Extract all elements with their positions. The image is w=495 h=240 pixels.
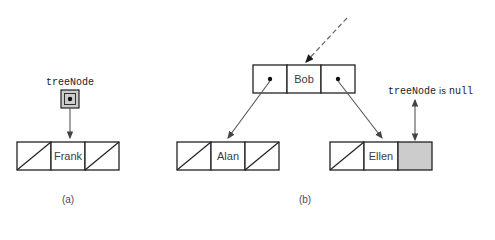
frank-value-label: Frank: [54, 150, 83, 162]
panel-a: treeNode Frank (a): [17, 77, 119, 205]
panel-b: Bob Alan Ellen: [177, 18, 473, 205]
bob-right-to-ellen-arrow: [338, 81, 382, 138]
alan-value-label: Alan: [217, 150, 239, 162]
treenode-pointer-box: [61, 90, 79, 108]
bob-left-pointer-dot-icon: [268, 77, 272, 81]
bob-node: Bob: [253, 65, 355, 93]
treenode-null-null-word: null: [449, 86, 473, 97]
bob-left-to-alan-arrow: [228, 81, 270, 138]
frank-node: Frank: [17, 142, 119, 170]
ellen-right-cell-shaded: [398, 142, 432, 170]
figure-root: treeNode Frank (a): [0, 0, 495, 240]
ellen-node: Ellen: [330, 142, 432, 170]
panel-b-caption: (b): [299, 194, 311, 205]
treenode-null-mono-word: treeNode: [388, 86, 436, 97]
bob-right-pointer-dot-icon: [336, 77, 340, 81]
bob-value-label: Bob: [294, 73, 314, 85]
incoming-dashed-arrow: [306, 18, 347, 62]
treenode-pointer-label: treeNode: [46, 77, 94, 88]
treenode-null-is-word: is: [439, 85, 446, 96]
alan-node: Alan: [177, 142, 279, 170]
treenode-null-annotation: treeNodeisnull: [388, 85, 473, 97]
ellen-value-label: Ellen: [369, 150, 393, 162]
panel-a-caption: (a): [62, 194, 74, 205]
svg-text:treeNodeisnull: treeNodeisnull: [388, 85, 473, 97]
pointer-dot-icon: [68, 97, 72, 101]
